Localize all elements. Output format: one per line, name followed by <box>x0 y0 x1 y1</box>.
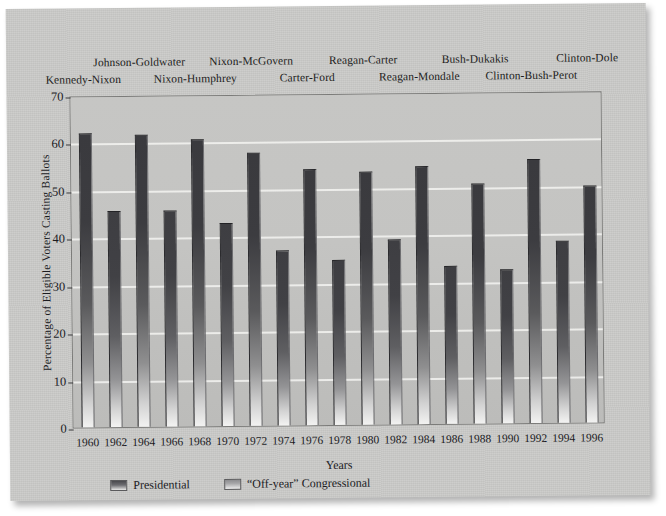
bar-1962 <box>107 211 122 427</box>
election-label-1992: Clinton-Bush-Perot <box>485 69 577 82</box>
plot-area: 010203040506070 196019621964196619681970… <box>69 91 604 428</box>
legend-label: “Off-year” Congressional <box>247 476 371 492</box>
election-label-1996: Clinton-Dole <box>556 51 618 64</box>
chart-legend: Presidential“Off-year” Congressional <box>110 476 370 493</box>
x-axis-tick-label: 1960 <box>76 436 99 448</box>
election-annotations: Kennedy-NixonJohnson-GoldwaterNixon-Hump… <box>6 3 646 9</box>
y-axis-tick-label: 10 <box>54 374 67 389</box>
y-axis-tick-label: 20 <box>53 327 66 342</box>
y-axis-tick-label: 0 <box>60 422 66 437</box>
y-axis-tick-mark <box>69 429 74 430</box>
bar-1976 <box>303 169 318 425</box>
legend-swatch-presidential <box>110 480 127 491</box>
y-axis-tick-label: 40 <box>52 232 65 247</box>
election-label-1988: Bush-Dukakis <box>442 52 509 65</box>
bar-1984 <box>415 167 430 425</box>
x-axis-tick-label: 1976 <box>300 434 323 446</box>
x-axis-tick-label: 1992 <box>524 432 547 444</box>
bar-1966 <box>163 211 178 427</box>
election-label-1960: Kennedy-Nixon <box>46 73 122 86</box>
bar-1978 <box>332 260 347 425</box>
y-axis-tick-label: 50 <box>52 185 65 200</box>
scanned-page: Kennedy-NixonJohnson-GoldwaterNixon-Hump… <box>6 3 651 501</box>
bar-1960 <box>78 133 94 427</box>
legend-item-offyear[interactable]: “Off-year” Congressional <box>224 476 371 492</box>
bar-1992 <box>527 159 543 423</box>
bar-1970 <box>219 223 234 426</box>
x-axis-tick-label: 1978 <box>328 434 351 446</box>
x-axis-tick-label: 1990 <box>496 432 519 444</box>
legend-label: Presidential <box>133 477 190 493</box>
election-label-1964: Johnson-Goldwater <box>93 55 185 68</box>
bar-1968 <box>190 139 206 426</box>
x-axis-tick-label: 1970 <box>216 435 239 447</box>
bar-1972 <box>247 153 263 426</box>
bar-1964 <box>134 135 150 427</box>
x-axis-tick-label: 1996 <box>580 431 603 443</box>
bar-1986 <box>444 266 459 424</box>
election-label-1980: Reagan-Carter <box>329 53 397 66</box>
y-axis-tick-label: 70 <box>51 90 64 105</box>
legend-swatch-offyear <box>224 479 241 490</box>
x-axis-tick-label: 1974 <box>272 434 295 446</box>
election-label-1972: Nixon-McGovern <box>209 54 293 67</box>
bar-1974 <box>275 250 290 426</box>
y-axis-tick-label: 30 <box>53 279 66 294</box>
x-axis-tick-label: 1988 <box>468 432 491 444</box>
bar-1982 <box>387 239 402 424</box>
x-axis-tick-label: 1982 <box>384 433 407 445</box>
x-axis-tick-label: 1972 <box>244 435 267 447</box>
bar-1988 <box>471 184 486 424</box>
bar-1990 <box>500 269 514 423</box>
bar-series <box>71 92 604 427</box>
x-axis-tick-label: 1994 <box>552 432 575 444</box>
election-label-1976: Carter-Ford <box>280 71 335 84</box>
y-axis-tick-label: 60 <box>51 137 64 152</box>
x-axis-title: Years <box>73 455 605 475</box>
bar-1994 <box>555 241 570 423</box>
bar-1996 <box>583 186 598 423</box>
election-label-1968: Nixon-Humphrey <box>154 72 237 85</box>
legend-item-presidential[interactable]: Presidential <box>110 477 190 493</box>
x-axis-tick-label: 1964 <box>132 436 155 448</box>
bar-1980 <box>359 171 374 424</box>
x-axis-tick-label: 1984 <box>412 433 435 445</box>
election-label-1984: Reagan-Mondale <box>379 70 460 83</box>
x-axis-tick-label: 1966 <box>160 435 183 447</box>
x-axis-tick-label: 1986 <box>440 433 463 445</box>
x-axis-tick-label: 1968 <box>188 435 211 447</box>
x-axis-tick-label: 1962 <box>104 436 127 448</box>
x-axis-tick-label: 1980 <box>356 434 379 446</box>
